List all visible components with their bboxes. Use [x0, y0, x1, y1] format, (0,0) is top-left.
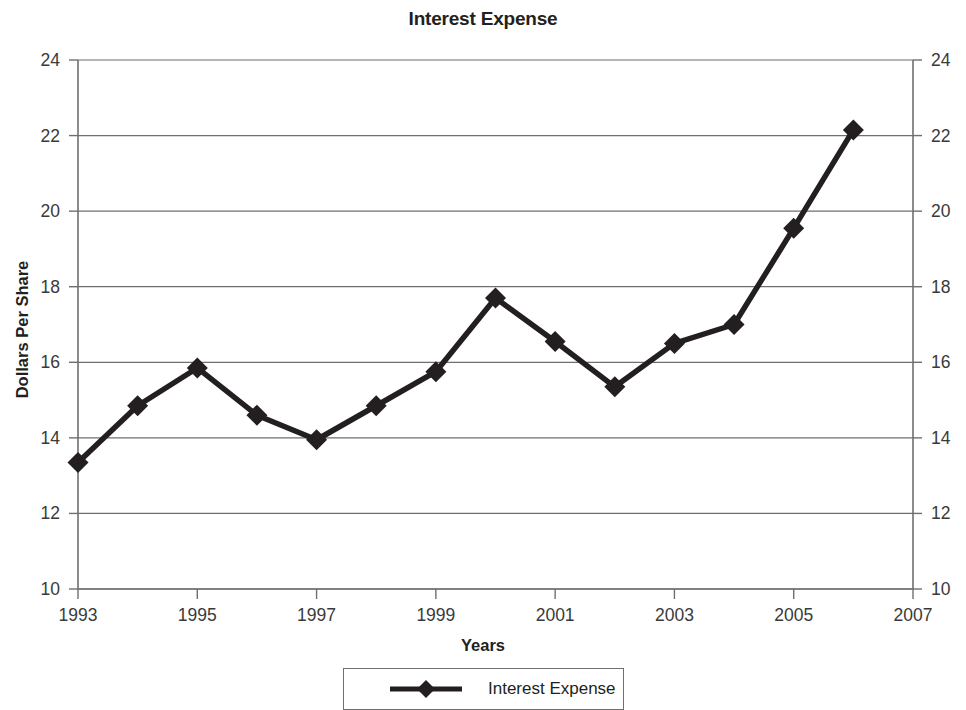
y-tick-label-right: 24 [931, 50, 951, 70]
y-tick-label-left: 18 [41, 277, 60, 297]
x-tick-label: 2001 [536, 605, 575, 625]
x-tick-label: 1993 [59, 605, 98, 625]
x-tick-label: 1995 [178, 605, 217, 625]
x-tick-label: 2003 [655, 605, 694, 625]
y-tick-label-right: 12 [931, 503, 950, 523]
y-tick-label-right: 10 [931, 579, 951, 599]
y-tick-label-left: 12 [41, 503, 60, 523]
series-line [78, 130, 853, 463]
y-tick-label-left: 20 [41, 201, 61, 221]
y-tick-label-right: 20 [931, 201, 951, 221]
y-tick-label-right: 14 [931, 428, 951, 448]
y-tick-label-left: 16 [41, 352, 60, 372]
x-tick-label: 1999 [416, 605, 455, 625]
y-tick-label-left: 14 [41, 428, 61, 448]
y-tick-label-right: 18 [931, 277, 950, 297]
y-tick-label-right: 16 [931, 352, 950, 372]
y-tick-label-left: 10 [41, 579, 61, 599]
x-tick-label: 1997 [297, 605, 336, 625]
x-tick-label: 2005 [774, 605, 813, 625]
x-tick-label: 2007 [894, 605, 933, 625]
y-tick-label-left: 22 [41, 126, 60, 146]
legend-line-diamond-icon [390, 679, 462, 699]
legend-label: Interest Expense [488, 679, 616, 699]
legend-item: Interest Expense [344, 669, 623, 709]
y-tick-label-left: 24 [41, 50, 61, 70]
chart-legend: Interest Expense [343, 668, 624, 710]
y-tick-label-right: 22 [931, 126, 950, 146]
